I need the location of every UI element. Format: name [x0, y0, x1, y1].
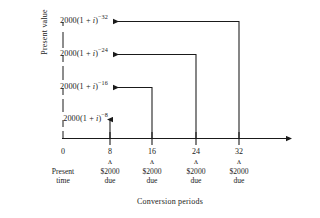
x-tick-label-32: 32 [227, 148, 251, 156]
annotation-payment-24-amount: $2000 [176, 167, 216, 176]
annotation-present-time: Present time [43, 167, 83, 186]
pv-label-16-prefix: 2000(1 + [60, 82, 93, 91]
pv-label-24-exponent: −24 [98, 46, 108, 53]
pv-label-24: 2000(1 + i)−24 [60, 50, 108, 58]
x-tick-label-8: 8 [98, 148, 122, 156]
annotation-payment-32-note: due [219, 176, 259, 185]
caret-marker-16: ʌ [140, 158, 164, 166]
pv-label-32-prefix: 2000(1 + [60, 16, 93, 25]
x-tick-label-24: 24 [184, 148, 208, 156]
discount-path-32 [113, 22, 239, 139]
annotation-payment-24-note: due [176, 176, 216, 185]
pv-label-32-exponent: −32 [98, 13, 108, 20]
annotation-payment-16-note: due [132, 176, 172, 185]
annotation-payment-8: $2000 due [90, 167, 130, 186]
annotation-payment-32-amount: $2000 [219, 167, 259, 176]
pv-label-8-prefix: 2000(1 + [63, 114, 96, 123]
pv-label-16: 2000(1 + i)−16 [60, 83, 108, 91]
annotation-payment-8-amount: $2000 [90, 167, 130, 176]
x-tick-label-16: 16 [140, 148, 164, 156]
caret-marker-24: ʌ [184, 158, 208, 166]
pv-label-8-exponent: −8 [101, 111, 108, 118]
annotation-payment-16-amount: $2000 [132, 167, 172, 176]
annotation-payment-24: $2000 due [176, 167, 216, 186]
annotation-payment-8-note: due [90, 176, 130, 185]
annotation-payment-16: $2000 due [132, 167, 172, 186]
present-value-diagram: Present value 2000(1 + i)−32 2000(1 + i)… [0, 0, 320, 218]
pv-label-16-exponent: −16 [98, 79, 108, 86]
pv-label-8: 2000(1 + i)−8 [63, 115, 108, 123]
annotation-present-time-line2: time [43, 176, 83, 185]
caret-marker-8: ʌ [98, 158, 122, 166]
pv-label-32: 2000(1 + i)−32 [60, 17, 108, 25]
pv-label-24-prefix: 2000(1 + [60, 49, 93, 58]
caret-marker-32: ʌ [227, 158, 251, 166]
discount-path-24 [113, 55, 196, 139]
discount-path-16 [113, 88, 152, 139]
y-axis-title: Present value [41, 0, 49, 75]
x-axis-title: Conversion periods [100, 198, 240, 206]
x-tick-label-0: 0 [51, 148, 75, 156]
annotation-present-time-line1: Present [43, 167, 83, 176]
discount-path-8 [110, 120, 113, 139]
annotation-payment-32: $2000 due [219, 167, 259, 186]
